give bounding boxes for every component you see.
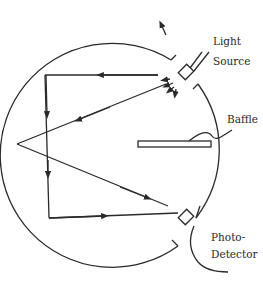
- photodetector-body: [178, 209, 194, 225]
- sphere-outline: [0, 43, 178, 267]
- integrating-sphere-diagram: Light Source Baffle Photo- Detector: [0, 0, 263, 286]
- baffle-leader-line: [189, 130, 232, 141]
- photodetector-label-line2: Detector: [211, 249, 258, 260]
- light-source-lead-1: [190, 52, 202, 68]
- detector-port-flange-bottom: [172, 240, 178, 246]
- baffle-label: Baffle: [227, 114, 258, 125]
- light-source-label-line1: Light: [213, 36, 241, 47]
- light-source-label-line2: Source: [213, 56, 250, 67]
- light-port-flange-bottom: [193, 84, 198, 89]
- photodetector-label-line1: Photo-: [211, 232, 245, 243]
- sphere-outline-right: [196, 84, 219, 218]
- baffle: [138, 141, 211, 147]
- light-port-flange-top: [171, 55, 176, 60]
- light-source-lead-2: [194, 52, 209, 71]
- stray-ray-arrow: [161, 24, 166, 35]
